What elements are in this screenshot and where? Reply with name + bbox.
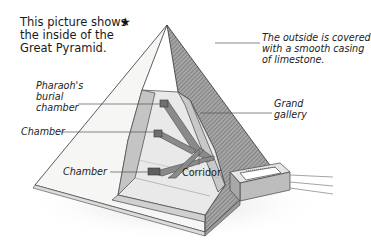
burial-line-1: Pharaoh's [36,80,83,91]
casing-line-3: of limestone. [262,54,371,65]
intro-caption: This picture shows the inside of the Gre… [20,16,127,55]
burial-chamber-label: Pharaoh's burial chamber [36,80,83,113]
gallery-line-1: Grand [274,98,307,109]
burial-chamber-block [160,100,168,107]
intro-line-3: Great Pyramid. [20,42,127,55]
lower-chamber-block [148,168,160,175]
middle-chamber-block [154,130,162,137]
chamber-lower-label: Chamber [63,166,107,177]
casing-line-1: The outside is covered [262,32,371,43]
star-icon: ★ [120,15,131,29]
outside-casing-label: The outside is covered with a smooth cas… [262,32,371,65]
burial-line-3: chamber [36,102,83,113]
chamber-middle-label: Chamber [21,126,65,137]
grand-gallery-label: Grand gallery [274,98,307,120]
burial-line-2: burial [36,91,83,102]
corridor-label: Corridor [182,168,221,179]
casing-line-2: with a smooth casing [262,43,371,54]
gallery-line-2: gallery [274,109,307,120]
